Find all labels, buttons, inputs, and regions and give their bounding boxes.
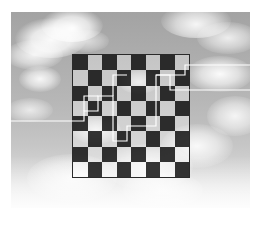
board-square-r7c6 [146,147,161,162]
board-square-r6c6 [146,131,161,146]
board-square-r8c8 [175,162,190,177]
board-square-r8c7 [160,162,175,177]
board-square-r8c1 [73,162,88,177]
board-square-r3c6 [146,86,161,101]
board-square-r7c7 [160,147,175,162]
board-square-r5c3 [102,116,117,131]
board-square-r2c7 [160,70,175,85]
board-square-r2c5 [131,70,146,85]
board-square-r1c3 [102,55,117,70]
board-square-r6c5 [131,131,146,146]
board-square-r4c6 [146,101,161,116]
board-square-r3c5 [131,86,146,101]
board-square-r7c2 [88,147,103,162]
board-square-r6c4 [117,131,132,146]
board-square-r2c3 [102,70,117,85]
board-square-r4c4 [117,101,132,116]
board-square-r3c7 [160,86,175,101]
board-square-r3c8 [175,86,190,101]
board-square-r3c3 [102,86,117,101]
figure-canvas [0,0,261,225]
board-square-r4c7 [160,101,175,116]
board-square-r4c8 [175,101,190,116]
board-square-r1c1 [73,55,88,70]
board-square-r1c4 [117,55,132,70]
board-square-r7c3 [102,147,117,162]
board-square-r5c8 [175,116,190,131]
board-square-r5c6 [146,116,161,131]
board-square-r1c5 [131,55,146,70]
board-square-r1c7 [160,55,175,70]
board-square-r8c6 [146,162,161,177]
board-square-r5c7 [160,116,175,131]
board-square-r2c2 [88,70,103,85]
checkerboard-grid [73,55,189,177]
board-square-r4c3 [102,101,117,116]
board-square-r8c5 [131,162,146,177]
board-square-r2c6 [146,70,161,85]
board-square-r2c1 [73,70,88,85]
board-square-r7c4 [117,147,132,162]
board-square-r4c5 [131,101,146,116]
board-square-r6c2 [88,131,103,146]
board-square-r2c4 [117,70,132,85]
board-square-r6c1 [73,131,88,146]
board-square-r3c4 [117,86,132,101]
checkerboard-overlay [73,55,189,177]
board-square-r6c3 [102,131,117,146]
board-square-r2c8 [175,70,190,85]
board-square-r6c8 [175,131,190,146]
board-square-r1c2 [88,55,103,70]
board-square-r5c5 [131,116,146,131]
board-square-r6c7 [160,131,175,146]
board-square-r1c6 [146,55,161,70]
board-square-r3c1 [73,86,88,101]
board-square-r7c1 [73,147,88,162]
board-square-r8c4 [117,162,132,177]
board-square-r4c2 [88,101,103,116]
board-square-r4c1 [73,101,88,116]
board-square-r1c8 [175,55,190,70]
board-square-r8c2 [88,162,103,177]
board-square-r5c4 [117,116,132,131]
board-square-r3c2 [88,86,103,101]
board-square-r8c3 [102,162,117,177]
board-square-r5c1 [73,116,88,131]
board-square-r7c8 [175,147,190,162]
board-square-r7c5 [131,147,146,162]
board-square-r5c2 [88,116,103,131]
